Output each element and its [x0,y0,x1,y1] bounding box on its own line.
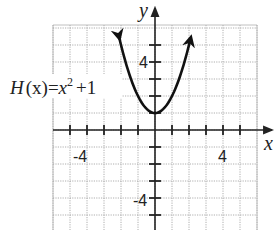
x-tick-label-4: 4 [218,148,227,165]
svg-text:H(x)=x2+1: H(x)=x2+1 [9,75,96,99]
coordinate-plane: x y -4 4 4 -4 H(x)=x2+1 [0,0,278,230]
y-axis-label: y [137,0,148,22]
x-axis-label: x [263,132,273,154]
label-rest: +1 [76,77,96,98]
graph-figure: x y -4 4 4 -4 H(x)=x2+1 [0,0,278,230]
function-label: H(x)=x2+1 [8,74,122,99]
label-arg: (x) [26,77,48,99]
label-lhs: H [9,77,25,98]
label-exponent: 2 [67,75,73,89]
x-tick-label-neg4: -4 [73,148,87,165]
y-tick-label-4: 4 [139,54,148,71]
y-tick-label-neg4: -4 [133,192,147,209]
label-eq: = [48,77,59,98]
